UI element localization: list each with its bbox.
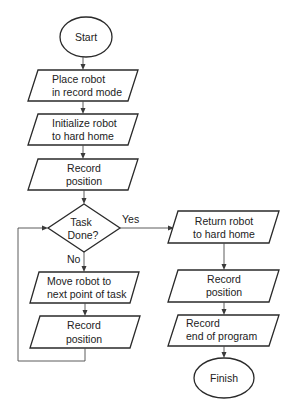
return-robot-node: Return robot to hard home [168, 211, 279, 243]
finish-label: Finish [210, 372, 238, 384]
arrowhead-icon [222, 352, 227, 358]
finish-node: Finish [194, 358, 254, 398]
init-label-line2: to hard home [52, 130, 114, 142]
arrowhead-icon [82, 266, 87, 272]
yes-label: Yes [122, 213, 139, 225]
record3-label-line2: position [206, 286, 242, 298]
move-robot-node: Move robot to next point of task [30, 272, 139, 303]
record1-label-line2: position [66, 175, 102, 187]
place-label-line2: in record mode [52, 86, 122, 98]
record1-label-line1: Record [67, 162, 101, 174]
record-position-node-3: Record position [168, 270, 279, 302]
record-end-node: Record end of program [168, 315, 279, 346]
arrowhead-icon [83, 310, 88, 316]
record2-label-line2: position [66, 333, 102, 345]
decision-label-line2: Done? [68, 229, 99, 241]
start-label: Start [75, 31, 97, 43]
record-position-node-1: Record position [28, 159, 138, 190]
arrowhead-icon [42, 226, 48, 231]
arrowhead-icon [81, 153, 86, 159]
arrowhead-icon [222, 309, 227, 315]
arrowhead-icon [81, 64, 86, 70]
record-position-node-2: Record position [30, 316, 140, 348]
move-label-line1: Move robot to [47, 275, 111, 287]
record-end-label-line1: Record [186, 317, 220, 329]
arrowhead-icon [82, 198, 87, 204]
flowchart: Start Place robot in record mode Initial… [0, 0, 301, 415]
arrowhead-icon [222, 264, 227, 270]
decision-label-line1: Task [70, 216, 92, 228]
arrowhead-icon [81, 108, 86, 114]
no-label: No [67, 253, 81, 265]
initialize-robot-node: Initialize robot to hard home [28, 114, 138, 145]
record3-label-line1: Record [207, 273, 241, 285]
record-end-label-line2: end of program [186, 330, 257, 342]
return-label-line2: to hard home [193, 228, 255, 240]
init-label-line1: Initialize robot [52, 117, 117, 129]
return-label-line1: Return robot [195, 215, 253, 227]
move-label-line2: next point of task [47, 288, 127, 300]
task-done-decision-node: Task Done? [48, 204, 120, 252]
place-label-line1: Place robot [52, 73, 105, 85]
record2-label-line1: Record [67, 319, 101, 331]
place-robot-node: Place robot in record mode [28, 70, 138, 101]
decision-shape [48, 204, 120, 252]
start-node: Start [60, 17, 112, 57]
